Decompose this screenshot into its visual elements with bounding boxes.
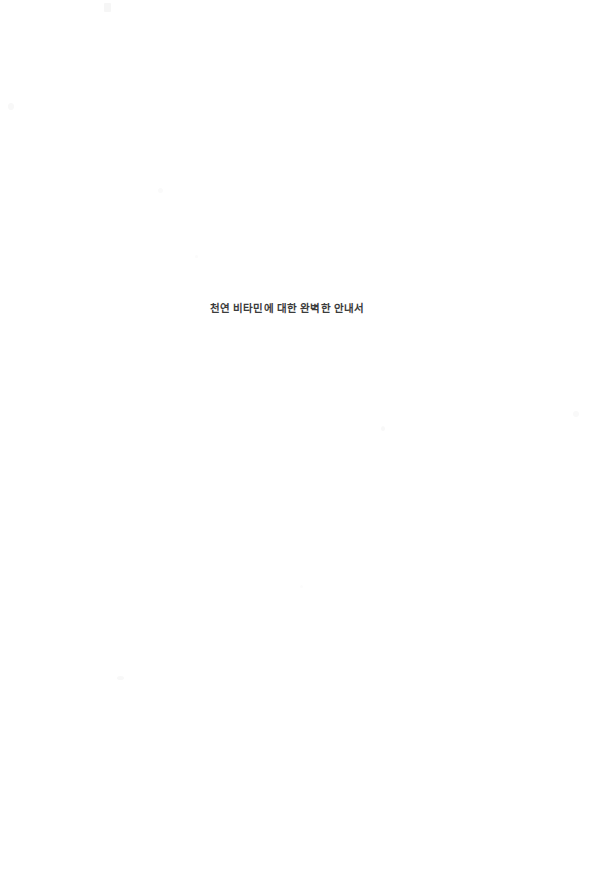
scan-speck-icon: [104, 3, 111, 12]
scanned-page: 천연 비타민에 대한 완벽한 안내서: [0, 0, 594, 870]
scan-speck-icon: [117, 676, 124, 680]
scan-speck-icon: [300, 585, 303, 588]
scan-speck-icon: [8, 103, 14, 110]
scan-speck-icon: [381, 426, 385, 431]
scan-speck-icon: [158, 188, 163, 193]
title-block: 천연 비타민에 대한 완벽한 안내서: [0, 298, 594, 316]
page-title: 천연 비타민에 대한 완벽한 안내서: [210, 301, 364, 315]
scan-speck-icon: [573, 411, 579, 417]
scan-speck-icon: [195, 255, 198, 258]
